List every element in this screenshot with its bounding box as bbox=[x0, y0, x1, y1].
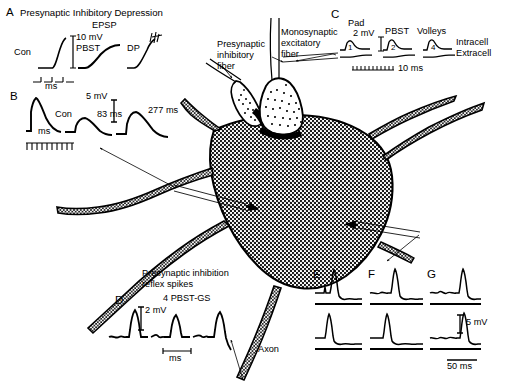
inhibitory-bouton bbox=[231, 81, 262, 126]
panel-b-time-calibration: ms bbox=[38, 127, 50, 137]
panel-d-time-calibration: ms bbox=[169, 354, 181, 364]
trace-label-con-a: Con bbox=[14, 48, 31, 58]
panel-efg-traces bbox=[315, 269, 481, 360]
calibration-c-time bbox=[352, 66, 394, 70]
trace-c4-intracell bbox=[423, 40, 452, 50]
calibration-c-voltage bbox=[378, 37, 384, 51]
trace-label-277ms: 277 ms bbox=[148, 106, 178, 116]
trace-b-83 bbox=[65, 118, 112, 135]
label-axon: Axon bbox=[258, 345, 279, 355]
panel-c-trace-number-1: 1 bbox=[348, 44, 352, 52]
panel-efg-voltage-calibration: 5 mV bbox=[466, 318, 487, 328]
trace-c1-intracell bbox=[340, 41, 370, 50]
trace-c2-intracell bbox=[383, 40, 412, 50]
dendrite-left bbox=[57, 168, 213, 215]
pointer-to-panel-B bbox=[100, 148, 176, 188]
trace-label-con-b: Con bbox=[55, 110, 72, 120]
panel-d-title: Presynaptic inhibition reflex spikes bbox=[142, 268, 229, 290]
trace-f-bottom bbox=[370, 314, 423, 344]
panel-d-letter: D bbox=[115, 294, 123, 306]
panel-c-time-calibration: 10 ms bbox=[398, 64, 423, 74]
calibration-b-time bbox=[26, 143, 74, 150]
panel-a-title: Presynaptic Inhibitory Depression bbox=[20, 8, 163, 18]
panel-e-letter: E bbox=[313, 268, 321, 280]
panel-c-trace-number-4: 4 bbox=[431, 44, 435, 52]
panel-c-header-pbst: PBST bbox=[385, 27, 409, 37]
label-presynaptic-inhibitory-fiber: Presynaptic inhibitory fiber bbox=[217, 39, 265, 73]
trace-label-pbst-a: PBST bbox=[76, 44, 100, 54]
trace-f-top bbox=[370, 269, 423, 299]
trace-d3 bbox=[193, 312, 231, 350]
panel-c-letter: C bbox=[331, 8, 339, 20]
trace-g-top bbox=[430, 269, 481, 299]
panel-a-time-calibration: ms bbox=[45, 82, 57, 92]
trace-c1-extracell bbox=[340, 55, 372, 57]
neuroscience-figure: A Presynaptic Inhibitory Depression EPSP… bbox=[0, 0, 509, 389]
dendrite-upper-right-b bbox=[383, 103, 484, 160]
trace-b-277 bbox=[116, 112, 168, 137]
panel-c-row-extracell: Extracell bbox=[456, 49, 491, 59]
trace-label-83ms: 83 ms bbox=[97, 110, 122, 120]
panel-d-voltage-calibration: 2 mV bbox=[145, 306, 166, 316]
pointer-to-panel-D bbox=[231, 340, 243, 380]
label-monosynaptic-excitatory-fiber: Monosynaptic excitatory fiber bbox=[281, 27, 338, 61]
panel-b-traces bbox=[26, 98, 168, 150]
trace-e-bottom bbox=[315, 314, 362, 344]
panel-b-voltage-calibration: 5 mV bbox=[86, 92, 107, 102]
panel-d-traces bbox=[109, 307, 231, 354]
panel-c-header-volleys: Volleys bbox=[417, 27, 446, 37]
trace-c2-extracell bbox=[383, 55, 415, 57]
dendrite-upper-right-a bbox=[369, 96, 456, 139]
dendrite-upper-left bbox=[181, 99, 221, 131]
panel-c-row-intracell: Intracell bbox=[456, 38, 488, 48]
panel-g-letter: G bbox=[427, 268, 436, 280]
panel-a-voltage-calibration: 10 mV bbox=[76, 33, 103, 43]
dendrite-lower-right bbox=[378, 242, 414, 263]
trace-d1 bbox=[109, 310, 148, 338]
axon bbox=[237, 286, 281, 380]
trace-d2 bbox=[151, 315, 190, 337]
excitatory-fiber-stalk bbox=[270, 18, 279, 80]
trace-label-dp-a: DP bbox=[127, 44, 140, 54]
panel-a-letter: A bbox=[6, 6, 14, 18]
panel-efg-time-calibration: 50 ms bbox=[447, 362, 472, 372]
trace-a-con bbox=[38, 38, 66, 68]
panel-a-epsp-label: EPSP bbox=[92, 21, 117, 31]
trace-c4-extracell bbox=[423, 55, 455, 57]
panel-c-voltage-calibration: 2 mV bbox=[353, 29, 374, 39]
panel-b-letter: B bbox=[10, 90, 18, 102]
panel-d-condition: 4 PBST-GS bbox=[163, 294, 211, 304]
panel-c-trace-number-2: 2 bbox=[391, 44, 395, 52]
panel-f-letter: F bbox=[368, 268, 375, 280]
electrode-right-tip bbox=[346, 224, 358, 225]
